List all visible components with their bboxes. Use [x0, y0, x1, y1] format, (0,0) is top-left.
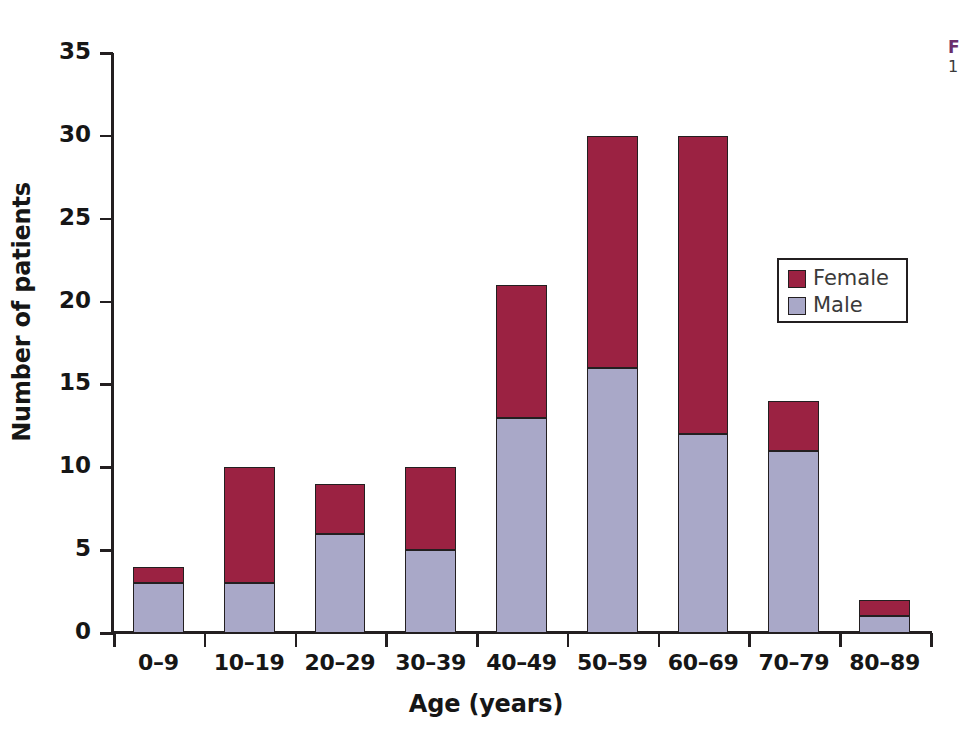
x-axis-category-label: 0–9: [113, 650, 204, 675]
x-axis-category-label: 10–19: [204, 650, 295, 675]
y-axis-tick-label: 20: [59, 287, 91, 313]
y-axis-tick-label: 5: [75, 535, 91, 561]
bar-segment-female: [859, 600, 910, 617]
bar-30-39: [405, 467, 456, 633]
y-axis-tick-label: 10: [59, 452, 91, 478]
legend-label-male: Male: [813, 295, 863, 316]
bar-segment-female: [224, 467, 275, 583]
x-axis-tick-mark: [204, 633, 207, 647]
bar-0-9: [133, 567, 184, 633]
x-axis-tick-mark: [113, 633, 116, 647]
bar-segment-male: [133, 583, 184, 633]
bar-segment-male: [768, 451, 819, 633]
y-axis-tick-mark: [100, 52, 113, 55]
bar-20-29: [315, 484, 366, 633]
y-axis-tick-label: 0: [75, 618, 91, 644]
bar-segment-female: [315, 484, 366, 534]
y-axis-tick-mark: [100, 301, 113, 304]
x-axis-tick-mark: [476, 633, 479, 647]
bar-60-69: [678, 136, 729, 633]
bar-segment-female: [405, 467, 456, 550]
x-axis-category-label: 40–49: [476, 650, 567, 675]
x-axis-category-label: 60–69: [658, 650, 749, 675]
y-axis-tick-mark: [100, 135, 113, 138]
bar-segment-female: [496, 285, 547, 418]
figure-caption-body: 1: [948, 58, 972, 76]
bar-segment-male: [315, 534, 366, 633]
x-axis-tick-mark: [658, 633, 661, 647]
plot-area: [113, 53, 930, 633]
bar-70-79: [768, 401, 819, 633]
bar-segment-male: [496, 418, 547, 633]
y-axis-tick-mark: [100, 632, 113, 635]
x-axis-tick-mark: [839, 633, 842, 647]
x-axis-tick-mark: [295, 633, 298, 647]
x-axis-category-label: 80–89: [839, 650, 930, 675]
x-axis-tick-mark: [567, 633, 570, 647]
y-axis-tick-mark: [100, 383, 113, 386]
bar-segment-female: [587, 136, 638, 368]
bar-segment-female: [133, 567, 184, 584]
figure-stacked-bar-chart: 05101520253035 0–910–1920–2930–3940–4950…: [0, 0, 972, 737]
bar-80-89: [859, 600, 910, 633]
figure-caption-label: F: [948, 38, 972, 58]
bar-50-59: [587, 136, 638, 633]
legend-item-female: Female: [788, 265, 906, 292]
legend-item-male: Male: [788, 292, 906, 319]
x-axis-category-label: 30–39: [385, 650, 476, 675]
x-axis-category-label: 20–29: [295, 650, 386, 675]
legend-label-female: Female: [813, 268, 889, 289]
bar-segment-female: [678, 136, 729, 434]
y-axis-tick-label: 35: [59, 38, 91, 64]
figure-caption-fragment: F 1: [948, 38, 972, 76]
bar-10-19: [224, 467, 275, 633]
y-axis-tick-label: 15: [59, 369, 91, 395]
x-axis-tick-mark: [385, 633, 388, 647]
bar-segment-male: [859, 616, 910, 633]
y-axis-tick-mark: [100, 549, 113, 552]
bar-segment-male: [587, 368, 638, 633]
legend-swatch-female-icon: [788, 270, 806, 288]
y-axis-title: Number of patients: [8, 82, 36, 542]
legend-swatch-male-icon: [788, 297, 806, 315]
chart-legend: Female Male: [777, 258, 908, 323]
bar-segment-male: [405, 550, 456, 633]
y-axis-tick-label: 30: [59, 121, 91, 147]
y-axis-tick-mark: [100, 218, 113, 221]
x-axis-category-label: 70–79: [748, 650, 839, 675]
y-axis-tick-label: 25: [59, 204, 91, 230]
x-axis-tick-mark: [748, 633, 751, 647]
bar-segment-female: [768, 401, 819, 451]
x-axis-title: Age (years): [0, 690, 972, 718]
bar-40-49: [496, 285, 547, 633]
x-axis-tick-mark: [930, 633, 933, 647]
bar-segment-male: [224, 583, 275, 633]
x-axis-category-label: 50–59: [567, 650, 658, 675]
y-axis-tick-mark: [100, 466, 113, 469]
bar-segment-male: [678, 434, 729, 633]
